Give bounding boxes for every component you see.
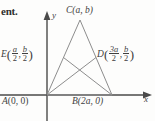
point-label-e: E(a2,b2) bbox=[1, 45, 33, 64]
fraction-d-y: b2 bbox=[123, 45, 129, 64]
y-axis-label: y bbox=[52, 11, 56, 20]
point-coords-a: (0, 0) bbox=[8, 96, 29, 106]
fraction-e-x-numerator: a bbox=[12, 45, 18, 54]
close-paren-e: ) bbox=[29, 47, 33, 62]
fraction-e-y-denominator: 2 bbox=[22, 53, 28, 63]
point-label-c: C(a, b) bbox=[66, 6, 93, 16]
fraction-e-x: a2 bbox=[12, 45, 18, 64]
fraction-e-x-denominator: 2 bbox=[12, 53, 18, 63]
point-coords-b: (2a, 0) bbox=[78, 96, 103, 106]
point-label-d: D(3a2,b2) bbox=[97, 45, 134, 64]
fraction-e-y-numerator: b bbox=[22, 45, 28, 54]
open-paren-d: ( bbox=[104, 47, 108, 62]
fraction-d-x: 3a2 bbox=[109, 45, 120, 64]
fraction-d-x-denominator: 2 bbox=[109, 53, 120, 63]
fraction-d-x-numerator: 3a bbox=[109, 45, 120, 54]
fraction-d-y-numerator: b bbox=[123, 45, 129, 54]
point-coords-c: (a, b) bbox=[72, 5, 93, 15]
y-axis-arrowhead bbox=[44, 11, 51, 20]
point-label-b: B(2a, 0) bbox=[72, 97, 103, 107]
point-label-a: A(0, 0) bbox=[2, 97, 28, 107]
geometry-figure: ent. y x C(a, b) A(0, 0) B(2a, 0) E(a2,b… bbox=[0, 0, 155, 121]
x-axis-label: x bbox=[144, 95, 148, 104]
fraction-e-y: b2 bbox=[22, 45, 28, 64]
page-text-fragment: ent. bbox=[1, 6, 18, 17]
open-paren-e: ( bbox=[7, 47, 11, 62]
close-paren-d: ) bbox=[130, 47, 134, 62]
point-name-d: D bbox=[97, 49, 104, 59]
fraction-d-y-denominator: 2 bbox=[123, 53, 129, 63]
